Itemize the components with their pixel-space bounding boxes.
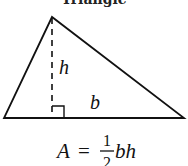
formula-numerator: 1 bbox=[103, 132, 111, 149]
formula-denominator: 2 bbox=[103, 154, 111, 166]
base-label: b bbox=[90, 91, 100, 113]
right-angle-marker bbox=[52, 106, 64, 118]
formula-lhs: A bbox=[55, 139, 70, 163]
height-label: h bbox=[59, 56, 69, 78]
triangle-diagram: h b A = 1 2 bh bbox=[0, 0, 188, 166]
formula-rhs: bh bbox=[115, 139, 136, 163]
formula-equals: = bbox=[78, 139, 90, 163]
area-formula: A = 1 2 bh bbox=[55, 132, 136, 166]
